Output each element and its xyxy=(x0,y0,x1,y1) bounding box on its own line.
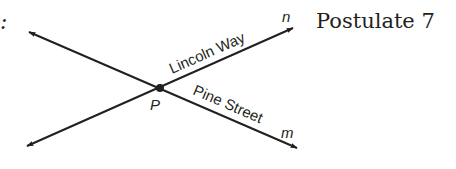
street-label-pine-street: Pine Street xyxy=(191,81,267,126)
line-label-m: m xyxy=(281,124,294,141)
postulate-label: Postulate 7 xyxy=(316,9,435,33)
point-p-dot xyxy=(156,84,164,92)
line-label-n: n xyxy=(282,8,290,25)
postulate-diagram: : P Lincoln Way Pine Street n m Postulat… xyxy=(0,0,456,169)
leading-text-fragment: : xyxy=(0,9,7,34)
diagram-canvas: : P Lincoln Way Pine Street n m Postulat… xyxy=(0,0,456,169)
point-p-label: P xyxy=(150,96,160,113)
